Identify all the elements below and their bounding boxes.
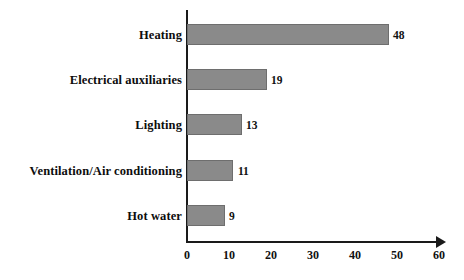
x-tick-label-60: 60: [424, 248, 454, 262]
bar-heating: [187, 24, 389, 45]
x-axis-arrow-icon: [436, 236, 446, 248]
x-tick-label-20: 20: [256, 248, 286, 262]
bar-chart: Heating Electrical auxiliaries Lighting …: [0, 0, 464, 280]
category-label-heating: Heating: [0, 28, 182, 42]
bar-value-hot-water: 9: [229, 210, 235, 222]
x-tick-label-40: 40: [340, 248, 370, 262]
bar-value-lighting: 13: [246, 119, 258, 131]
bar-value-ventilation-air-conditioning: 11: [238, 165, 249, 177]
category-label-lighting: Lighting: [0, 118, 182, 132]
bar-value-heating: 48: [393, 29, 405, 41]
x-axis-line: [186, 241, 438, 243]
x-tick-label-30: 30: [298, 248, 328, 262]
bar-electrical-auxiliaries: [187, 69, 267, 90]
bar-ventilation-air-conditioning: [187, 160, 233, 181]
x-tick-label-10: 10: [214, 248, 244, 262]
x-tick-label-0: 0: [172, 248, 202, 262]
plot-area: 48 19 13 11 9 0 10 20 30 40 50 60: [186, 10, 444, 242]
bar-hot-water: [187, 205, 225, 226]
category-label-electrical-auxiliaries: Electrical auxiliaries: [0, 73, 182, 87]
category-label-hot-water: Hot water: [0, 209, 182, 223]
category-label-ventilation-air-conditioning: Ventilation/Air conditioning: [0, 164, 182, 178]
bar-lighting: [187, 114, 242, 135]
x-tick-label-50: 50: [382, 248, 412, 262]
bar-value-electrical-auxiliaries: 19: [271, 74, 283, 86]
